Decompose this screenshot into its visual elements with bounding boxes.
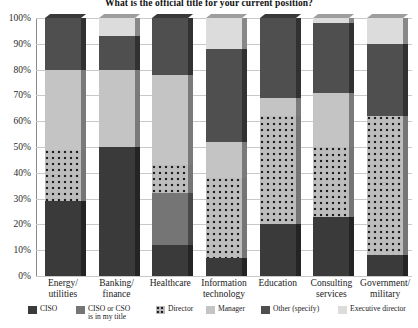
bar-segment[interactable]: [367, 18, 403, 44]
bar-segment-side: [296, 18, 301, 98]
y-axis-tick-label: 20%: [14, 219, 31, 229]
bar-segment-side: [403, 116, 408, 255]
bar-column[interactable]: [313, 18, 349, 276]
bar-front-face: [45, 18, 81, 276]
bar-segment-side: [188, 193, 193, 245]
x-axis-tick-label: Consultingservices: [305, 278, 359, 300]
bar-segment[interactable]: [45, 18, 81, 70]
bar-segment[interactable]: [206, 49, 242, 142]
y-axis-tick-label: 100%: [9, 13, 31, 23]
bar-column[interactable]: [152, 18, 188, 276]
legend-swatch: [338, 306, 347, 314]
bar-top-face: [367, 14, 408, 18]
bar-column[interactable]: [367, 18, 403, 276]
bar-top-face: [313, 14, 354, 18]
bar-segment[interactable]: [313, 147, 349, 217]
bar-segment[interactable]: [260, 98, 296, 116]
bar-segment[interactable]: [206, 18, 242, 49]
bar-segment[interactable]: [206, 178, 242, 258]
bar-top-face: [45, 14, 86, 18]
bar-top-face: [152, 14, 193, 18]
legend-item[interactable]: Manager: [206, 305, 245, 314]
bar-front-face: [313, 18, 349, 276]
bar-segment-side: [135, 36, 140, 70]
x-axis-labels: Energy/utilitiesBanking/financeHealthcar…: [36, 278, 412, 302]
legend-item[interactable]: Director: [156, 305, 193, 314]
bar-segment[interactable]: [99, 147, 135, 276]
legend-item[interactable]: CISO: [28, 305, 57, 314]
y-axis-tick-label: 40%: [14, 168, 31, 178]
bar-segment-side: [242, 142, 247, 178]
bar-segment-side: [403, 44, 408, 116]
bar-segment[interactable]: [99, 70, 135, 147]
bar-segment-side: [403, 18, 408, 44]
bar-segment[interactable]: [152, 18, 188, 75]
legend-swatch: [156, 306, 165, 314]
bar-segment[interactable]: [99, 36, 135, 70]
bar-front-face: [152, 18, 188, 276]
y-axis-tick-label: 60%: [14, 116, 31, 126]
bar-segment-side: [135, 147, 140, 276]
bar-segment[interactable]: [45, 150, 81, 202]
bar-segment-side: [188, 18, 193, 75]
bar-segment[interactable]: [367, 44, 403, 116]
bar-side-face: [296, 18, 301, 276]
x-axis-tick-label: Energy/utilities: [36, 278, 90, 300]
bar-segment[interactable]: [260, 224, 296, 276]
bar-segment[interactable]: [152, 193, 188, 245]
legend-swatch: [206, 306, 215, 314]
bar-segment[interactable]: [367, 116, 403, 255]
chart-title: What is the official title for your curr…: [0, 0, 418, 8]
bar-side-face: [188, 18, 193, 276]
y-axis-labels: 0%10%20%30%40%50%60%70%80%90%100%: [0, 18, 34, 276]
legend-item[interactable]: Other (specify): [261, 305, 319, 314]
bar-segment-side: [349, 147, 354, 217]
stacked-bar-chart: What is the official title for your curr…: [0, 0, 418, 328]
bar-segment[interactable]: [45, 201, 81, 276]
bar-segment[interactable]: [45, 70, 81, 150]
bar-side-face: [242, 18, 247, 276]
bar-segment[interactable]: [313, 217, 349, 276]
bar-segment-side: [135, 70, 140, 147]
bar-segment[interactable]: [313, 93, 349, 147]
x-axis-tick-label: Informationtechnology: [197, 278, 251, 300]
bar-segment[interactable]: [152, 165, 188, 193]
bar-column[interactable]: [206, 18, 242, 276]
bar-segment-side: [349, 93, 354, 147]
y-axis-tick-label: 30%: [14, 194, 31, 204]
bar-segment[interactable]: [367, 255, 403, 276]
bar-side-face: [349, 18, 354, 276]
legend-item[interactable]: CISO or CSO is in my title: [76, 305, 130, 322]
bar-front-face: [206, 18, 242, 276]
bar-segment-side: [188, 75, 193, 165]
y-axis-tick-label: 0%: [18, 271, 31, 281]
y-axis-tick-label: 50%: [14, 142, 31, 152]
bar-segment[interactable]: [206, 258, 242, 276]
bar-segment[interactable]: [99, 18, 135, 36]
bar-segment-side: [188, 245, 193, 276]
bar-segment[interactable]: [152, 75, 188, 165]
bar-column[interactable]: [260, 18, 296, 276]
bar-segment[interactable]: [152, 245, 188, 276]
bar-segment[interactable]: [313, 23, 349, 93]
bar-front-face: [99, 18, 135, 276]
bar-segment[interactable]: [206, 142, 242, 178]
bar-column[interactable]: [99, 18, 135, 276]
bar-front-face: [367, 18, 403, 276]
bar-top-face: [206, 14, 247, 18]
bar-segment-side: [242, 178, 247, 258]
bar-column[interactable]: [45, 18, 81, 276]
bar-segment[interactable]: [313, 18, 349, 23]
x-axis-tick-label: Healthcare: [143, 278, 197, 289]
y-axis-tick-label: 10%: [14, 245, 31, 255]
bar-segment-side: [81, 70, 86, 150]
y-axis-tick-label: 70%: [14, 90, 31, 100]
bar-segment-side: [242, 258, 247, 276]
bar-segment[interactable]: [260, 116, 296, 224]
legend-swatch: [76, 306, 85, 314]
bar-side-face: [403, 18, 408, 276]
bar-segment[interactable]: [260, 18, 296, 98]
bar-front-face: [260, 18, 296, 276]
y-axis-tick-label: 90%: [14, 39, 31, 49]
legend-item[interactable]: Executive director: [338, 305, 406, 314]
